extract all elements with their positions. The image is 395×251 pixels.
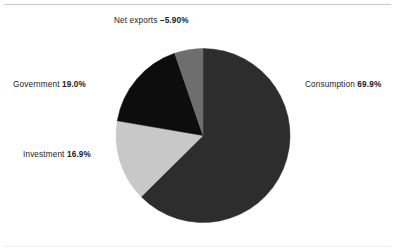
pie-label-net-exports: Net exports –5.90%	[114, 16, 189, 25]
pie-chart-figure: Net exports –5.90% Consumption 69.9% Gov…	[0, 0, 395, 251]
pie-label-government-value: 19.0%	[62, 80, 86, 89]
pie-label-government-category: Government	[13, 80, 60, 89]
pie-label-net-exports-category: Net exports	[114, 16, 158, 25]
pie-slices	[116, 48, 290, 222]
bottom-divider	[4, 246, 391, 247]
pie-label-consumption-value: 69.9%	[357, 80, 381, 89]
pie-label-investment-category: Investment	[23, 150, 65, 159]
pie-label-government: Government 19.0%	[13, 80, 86, 89]
pie-label-investment: Investment 16.9%	[23, 150, 91, 159]
pie-label-consumption-category: Consumption	[305, 80, 355, 89]
pie-label-net-exports-value: –5.90%	[160, 16, 189, 25]
pie-chart-svg	[0, 0, 395, 251]
pie-label-consumption: Consumption 69.9%	[305, 80, 381, 89]
pie-label-investment-value: 16.9%	[67, 150, 91, 159]
